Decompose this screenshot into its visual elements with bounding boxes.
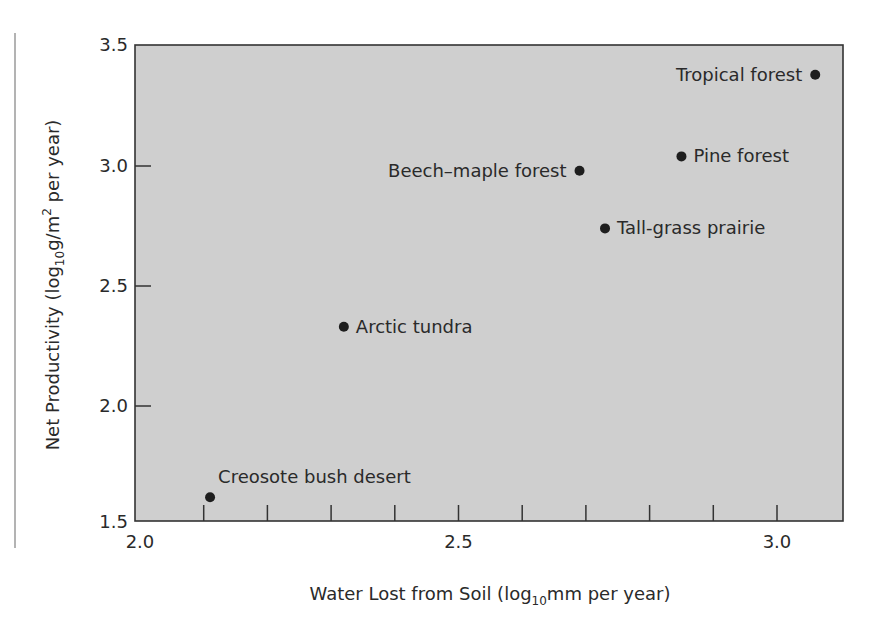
plot-area — [135, 45, 843, 521]
point-marker — [575, 166, 585, 176]
point-label: Arctic tundra — [356, 316, 473, 337]
data-point: Tall-grass prairie — [600, 217, 765, 238]
data-point: Beech–maple forest — [388, 160, 584, 181]
point-label: Tropical forest — [675, 64, 802, 85]
point-marker — [339, 322, 349, 332]
x-tick-label: 2.0 — [126, 531, 155, 552]
data-point: Arctic tundra — [339, 316, 473, 337]
y-axis-title: Net Productivity (log10g/m2 per year) — [40, 120, 67, 451]
point-label: Tall-grass prairie — [616, 217, 765, 238]
point-marker — [810, 70, 820, 80]
point-marker — [600, 223, 610, 233]
point-marker — [676, 151, 686, 161]
y-tick-label: 3.5 — [99, 34, 128, 55]
point-marker — [205, 492, 215, 502]
x-axis-title: Water Lost from Soil (log10mm per year) — [310, 583, 671, 608]
point-label: Beech–maple forest — [388, 160, 566, 181]
x-tick-label: 2.5 — [444, 531, 473, 552]
point-label: Creosote bush desert — [218, 466, 411, 487]
y-tick-label: 3.0 — [99, 155, 128, 176]
data-point: Tropical forest — [675, 64, 820, 85]
y-tick-label: 2.0 — [99, 395, 128, 416]
data-point: Pine forest — [676, 145, 789, 166]
y-tick-label: 2.5 — [99, 275, 128, 296]
x-tick-label: 3.0 — [763, 531, 792, 552]
scatter-chart: 2.02.53.0 1.52.02.53.03.5 Creosote bush … — [0, 0, 873, 633]
point-label: Pine forest — [693, 145, 789, 166]
y-tick-label: 1.5 — [99, 511, 128, 532]
